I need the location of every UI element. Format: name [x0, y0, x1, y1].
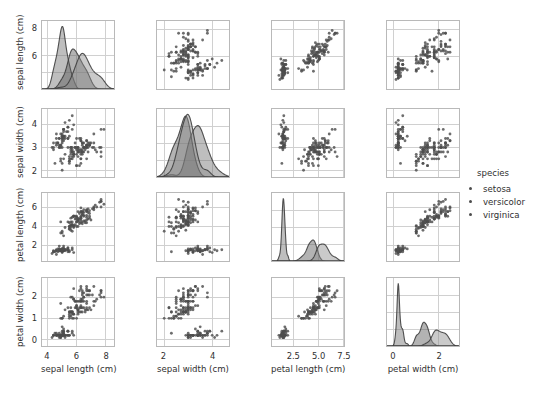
panel-scatter-petal_length-vs-petal_width [271, 277, 345, 347]
panel-kde-petal_width [386, 277, 460, 347]
panel-scatter-sepal_length-vs-sepal_width [41, 108, 115, 178]
legend: species setosa versicolor virginica [466, 168, 538, 221]
xtick-label-sepal_width: 2 [149, 351, 177, 361]
legend-title: species [477, 168, 538, 178]
panel-scatter-petal_width-vs-sepal_width [386, 108, 460, 178]
y-axis-label-sepal_length: sepal length (cm) [15, 20, 25, 90]
panel-scatter-petal_length-vs-sepal_width [271, 108, 345, 178]
y-axis-label-petal_width: petal width (cm) [15, 277, 25, 347]
panel-scatter-sepal_length-vs-petal_width [41, 277, 115, 347]
panel-scatter-sepal_width-vs-petal_length [156, 192, 230, 262]
legend-label: virginica [483, 210, 520, 220]
x-axis-label-sepal_length: sepal length (cm) [41, 364, 115, 374]
xtick-label-petal_length: 5.0 [305, 351, 333, 361]
x-axis-label-petal_length: petal length (cm) [271, 364, 345, 374]
xtick-label-petal_width: 2 [425, 351, 453, 361]
legend-item-versicolor[interactable]: versicolor [466, 195, 538, 208]
pairplot-figure: 68sepal length (cm)234sepal width (cm)24… [0, 0, 539, 393]
y-axis-label-petal_length: petal length (cm) [15, 192, 25, 262]
xtick-label-sepal_length: 8 [92, 351, 120, 361]
panel-scatter-sepal_length-vs-petal_length [41, 192, 115, 262]
legend-item-virginica[interactable]: virginica [466, 208, 538, 221]
panel-kde-sepal_width [156, 108, 230, 178]
clipped-top-text-row [0, 0, 539, 12]
legend-marker-icon [466, 213, 475, 216]
panel-kde-sepal_length [41, 20, 115, 90]
panel-scatter-petal_length-vs-sepal_length [271, 20, 345, 90]
panel-kde-petal_length [271, 192, 345, 262]
xtick-label-sepal_width: 4 [199, 351, 227, 361]
panel-scatter-sepal_width-vs-petal_width [156, 277, 230, 347]
x-axis-label-petal_width: petal width (cm) [386, 364, 460, 374]
legend-marker-icon [466, 187, 475, 190]
legend-label: setosa [483, 184, 511, 194]
legend-item-setosa[interactable]: setosa [466, 182, 538, 195]
x-axis-label-sepal_width: sepal width (cm) [156, 364, 230, 374]
panel-scatter-sepal_width-vs-sepal_length [156, 20, 230, 90]
xtick-label-sepal_length: 4 [33, 351, 61, 361]
legend-marker-icon [466, 200, 475, 203]
y-axis-label-sepal_width: sepal width (cm) [15, 108, 25, 178]
xtick-label-petal_width: 0 [379, 351, 407, 361]
xtick-label-sepal_length: 6 [63, 351, 91, 361]
panel-scatter-petal_width-vs-petal_length [386, 192, 460, 262]
xtick-label-petal_length: 2.5 [279, 351, 307, 361]
panel-scatter-petal_width-vs-sepal_length [386, 20, 460, 90]
xtick-label-petal_length: 7.5 [330, 351, 358, 361]
legend-label: versicolor [483, 197, 525, 207]
